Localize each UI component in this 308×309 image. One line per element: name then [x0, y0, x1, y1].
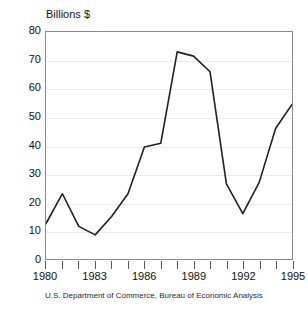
x-tick-label-1983: 1983 [82, 270, 106, 283]
x-tick-1989 [194, 261, 195, 269]
x-axis-ticks [45, 261, 293, 270]
y-tick-label-10: 10 [1, 225, 41, 236]
x-tick-1986 [144, 261, 145, 269]
x-tick-1991 [227, 261, 228, 269]
x-tick-1993 [260, 261, 261, 269]
plot-area [45, 31, 293, 260]
y-axis-title: Billions $ [46, 8, 90, 20]
x-tick-1981 [62, 261, 63, 269]
x-tick-label-1986: 1986 [132, 270, 156, 283]
y-tick-label-0: 0 [1, 254, 41, 265]
chart-figure: Billions $ 80706050403020100 19801983198… [0, 0, 308, 309]
x-tick-label-1992: 1992 [231, 270, 255, 283]
x-axis-tick-labels: 198019831986198919921995 [0, 270, 308, 286]
y-axis-tick-labels: 80706050403020100 [0, 31, 41, 260]
y-tick-label-20: 20 [1, 197, 41, 208]
x-tick-1982 [78, 261, 79, 269]
x-tick-1985 [128, 261, 129, 269]
y-tick-label-30: 30 [1, 168, 41, 179]
y-tick-label-60: 60 [1, 82, 41, 93]
x-tick-1987 [161, 261, 162, 269]
x-tick-label-1995: 1995 [281, 270, 305, 283]
y-tick-label-40: 40 [1, 140, 41, 151]
x-tick-1983 [95, 261, 96, 269]
x-tick-label-1980: 1980 [33, 270, 57, 283]
source-note: U.S. Department of Commerce, Bureau of E… [45, 291, 263, 301]
x-tick-1988 [177, 261, 178, 269]
data-series-line [46, 32, 292, 259]
x-tick-1984 [111, 261, 112, 269]
x-tick-1990 [210, 261, 211, 269]
x-tick-1992 [243, 261, 244, 269]
y-tick-label-50: 50 [1, 111, 41, 122]
y-tick-label-80: 80 [1, 25, 41, 36]
x-tick-1995 [293, 261, 294, 269]
x-tick-1994 [276, 261, 277, 269]
x-tick-1980 [45, 261, 46, 269]
x-tick-label-1989: 1989 [182, 270, 206, 283]
y-tick-label-70: 70 [1, 54, 41, 65]
